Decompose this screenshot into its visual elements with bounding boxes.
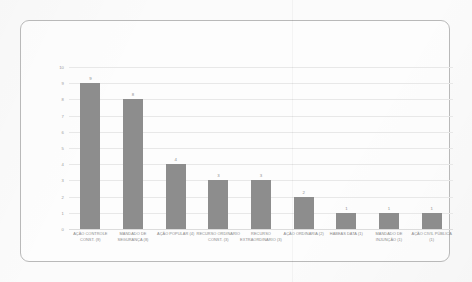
y-axis-tick-label: 6 [62,129,64,134]
x-axis-category-label: AÇÃO CONTROLE CONST. (9) [67,231,113,242]
y-axis-tick-label: 4 [62,162,64,167]
bar[interactable]: 8 [123,99,143,229]
y-axis-tick-label: 10 [59,65,64,70]
x-axis-category-label: MANDADO DE SEGURANÇA (8) [110,231,156,242]
x-axis-category-label: AÇÃO POPULAR (4) [153,231,199,237]
bar[interactable]: 3 [251,180,271,229]
chart-card: 012345678910 984332111 AÇÃO CONTROLE CON… [20,20,450,262]
bar[interactable]: 1 [336,213,356,229]
bar-value-label: 4 [174,157,176,162]
x-axis-category-label: MANDADO DE INJUNÇÃO (1) [366,231,412,242]
x-axis-category-label: AÇÃO ORDINÁRIA (2) [281,231,327,237]
gridline: 0 [69,229,453,230]
bar-value-label: 9 [89,76,91,81]
bar[interactable]: 4 [166,164,186,229]
x-axis-category-label: RECURSO EXTRAORDINÁRIO (3) [238,231,284,242]
bar-value-label: 3 [260,173,262,178]
bar-value-label: 2 [302,190,304,195]
gridline: 10 [69,67,453,68]
scanned-page-background: 012345678910 984332111 AÇÃO CONTROLE CON… [0,0,472,282]
bar[interactable]: 2 [294,197,314,229]
x-axis-category-label: HABEAS DATA (1) [323,231,369,237]
y-axis-tick-label: 3 [62,178,64,183]
y-axis-tick-label: 1 [62,210,64,215]
bar[interactable]: 1 [422,213,442,229]
bar[interactable]: 1 [379,213,399,229]
bar-value-label: 8 [132,92,134,97]
bar-value-label: 1 [345,206,347,211]
gridline: 9 [69,83,453,84]
y-axis-tick-label: 2 [62,194,64,199]
bar[interactable]: 9 [80,83,100,229]
x-axis-category-label: AÇÃO CIVIL PÚBLICA (1) [409,231,455,242]
bar-value-label: 3 [217,173,219,178]
y-axis-tick-label: 9 [62,81,64,86]
y-axis-tick-label: 8 [62,97,64,102]
y-axis-tick-label: 7 [62,113,64,118]
y-axis-tick-label: 5 [62,146,64,151]
y-axis-tick-label: 0 [62,227,64,232]
x-axis-category-label: RECURSO ORDINÁRIO CONST. (3) [195,231,241,242]
bar-value-label: 1 [430,206,432,211]
bar-value-label: 1 [388,206,390,211]
bar[interactable]: 3 [208,180,228,229]
bar-chart-plot-area: 012345678910 984332111 AÇÃO CONTROLE CON… [69,67,453,229]
